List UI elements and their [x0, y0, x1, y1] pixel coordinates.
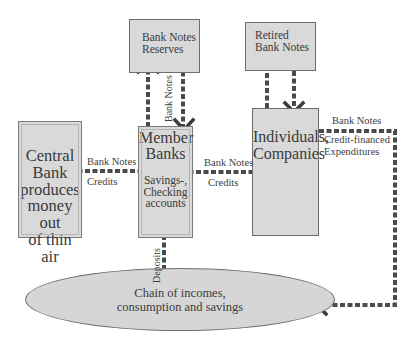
reserves-line-1: Bank Notes: [142, 32, 199, 44]
central-bank-line-5: of thin air: [19, 232, 81, 266]
label-ic-bank-notes: Bank Notes: [332, 115, 381, 126]
label-ic-expenditures: Expenditures: [324, 146, 379, 157]
retired-line-1: Retired: [255, 30, 315, 42]
retired-line-2: Bank Notes: [255, 42, 315, 54]
arrow-individuals-to-chain: [319, 131, 395, 305]
chain-line-2: consumption and savings: [26, 301, 334, 315]
label-deposits: Deposits: [151, 248, 162, 283]
member-banks-accounts: Savings-, Checking accounts: [139, 175, 192, 210]
chain-line-1: Chain of incomes,: [26, 287, 334, 301]
node-chain-of-incomes: Chain of incomes, consumption and saving…: [25, 268, 335, 331]
central-bank-line-4: money out: [19, 198, 81, 232]
individuals-line-1: Individuals,: [253, 128, 318, 145]
node-retired-bank-notes: Retired Bank Notes: [245, 22, 316, 71]
accounts-line-1: Savings-,: [139, 175, 192, 187]
node-individuals-companies: Individuals, Companies: [252, 108, 319, 236]
member-banks-line-2: Banks: [139, 146, 192, 162]
node-member-banks: Member Banks Savings-, Checking accounts: [138, 126, 193, 238]
label-reserves-bank-notes: Bank Notes: [163, 75, 174, 122]
label-cb-credits: Credits: [87, 176, 117, 187]
individuals-line-2: Companies: [253, 145, 318, 162]
node-central-bank: Central Bank produces money out of thin …: [18, 121, 82, 238]
label-ic-credit-financed: Credit-financed: [324, 134, 390, 145]
reserves-line-2: Reserves: [142, 44, 199, 56]
accounts-line-3: accounts: [139, 198, 192, 210]
label-mb-bank-notes: Bank Notes: [204, 157, 253, 168]
money-flow-diagram: Central Bank produces money out of thin …: [0, 0, 417, 356]
node-bank-notes-reserves: Bank Notes Reserves: [129, 19, 200, 73]
label-cb-bank-notes: Bank Notes: [87, 156, 136, 167]
member-banks-line-1: Member: [139, 130, 192, 146]
label-mb-credits: Credits: [208, 177, 238, 188]
